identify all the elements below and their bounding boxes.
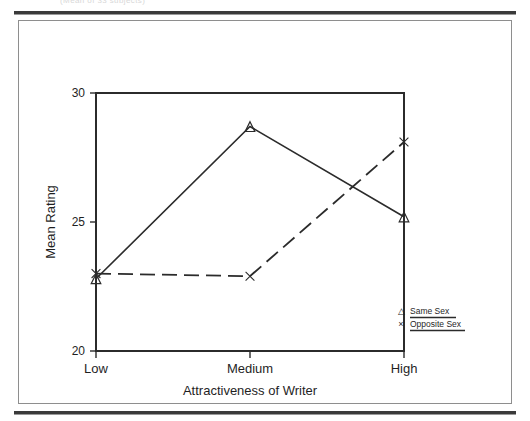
- y-tick-label-25: 25: [72, 215, 86, 229]
- cross-icon: ×: [398, 319, 403, 329]
- horizontal-rule-bottom: [14, 411, 516, 415]
- line-chart: 30 25 20 Low Medium High Mean Rating Att…: [19, 21, 513, 405]
- y-tick-label-20: 20: [72, 344, 86, 358]
- y-tick-label-30: 30: [72, 86, 86, 100]
- x-axis-ticks: [96, 351, 404, 358]
- chart-legend: △ Same Sex × Opposite Sex: [398, 306, 466, 331]
- legend-label-opposite-sex: Opposite Sex: [410, 319, 462, 329]
- x-tick-label-medium: Medium: [227, 361, 273, 376]
- legend-item-opposite-sex[interactable]: × Opposite Sex: [398, 319, 465, 331]
- x-axis-title: Attractiveness of Writer: [183, 383, 318, 398]
- x-tick-label-high: High: [391, 361, 418, 376]
- figure-frame: 30 25 20 Low Medium High Mean Rating Att…: [18, 20, 512, 404]
- y-axis-title: Mean Rating: [43, 185, 58, 259]
- triangle-icon: △: [398, 306, 405, 316]
- x-tick-label-low: Low: [84, 361, 108, 376]
- legend-item-same-sex[interactable]: △ Same Sex: [398, 306, 457, 318]
- series-same-sex: [91, 122, 409, 284]
- series-opposite-sex: [92, 138, 409, 281]
- legend-label-same-sex: Same Sex: [410, 306, 450, 316]
- series-opposite-sex-markers: [92, 138, 409, 281]
- horizontal-rule-top: [14, 11, 516, 15]
- page-caption-fragment: (Mean of 33 subjects): [60, 0, 260, 6]
- series-same-sex-markers: [91, 122, 409, 284]
